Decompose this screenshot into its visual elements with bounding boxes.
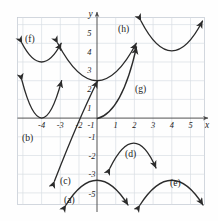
- x-tick-3: 3: [150, 121, 155, 130]
- y-axis-name: y: [87, 9, 93, 19]
- x-tick--4: -4: [38, 121, 45, 130]
- curve-label-c: (c): [60, 175, 71, 187]
- curve-label-h: (h): [118, 23, 129, 35]
- curve-label-f: (f): [25, 33, 35, 45]
- vertical-gridlines: [23, 18, 191, 205]
- coordinate-plane-svg: x y -4 -3 -2 -1 1 2 3 4 5 5 4 3 2 1 -1 -…: [0, 0, 218, 221]
- parabola-graph-figure: x y -4 -3 -2 -1 1 2 3 4 5 5 4 3 2 1 -1 -…: [0, 0, 218, 221]
- curve-label-b: (b): [22, 132, 33, 144]
- x-axis-name: x: [204, 120, 210, 130]
- y-tick-3: 3: [86, 66, 91, 75]
- y-tick--3: -3: [89, 170, 96, 179]
- x-tick--3: -3: [57, 121, 64, 130]
- curve-label-d: (d): [125, 148, 136, 160]
- curve-label-g: (g): [135, 83, 146, 95]
- curve-label-e: (e): [170, 177, 181, 189]
- curve-c: [55, 81, 98, 181]
- y-tick-2: 2: [87, 85, 91, 94]
- y-tick-4: 4: [87, 48, 91, 57]
- x-tick-1: 1: [114, 121, 118, 130]
- curve-g: [98, 47, 137, 119]
- x-tick-2: 2: [132, 121, 136, 130]
- x-tick-5: 5: [188, 121, 192, 130]
- y-tick-1: 1: [87, 104, 91, 113]
- x-tick-4: 4: [170, 121, 174, 130]
- x-tick--1: -1: [88, 121, 95, 130]
- y-tick--1: -1: [89, 133, 96, 142]
- y-tick--2: -2: [89, 152, 96, 161]
- y-tick-5: 5: [87, 29, 91, 38]
- y-tick--5: -5: [89, 190, 96, 199]
- curve-label-a: (a): [64, 194, 75, 206]
